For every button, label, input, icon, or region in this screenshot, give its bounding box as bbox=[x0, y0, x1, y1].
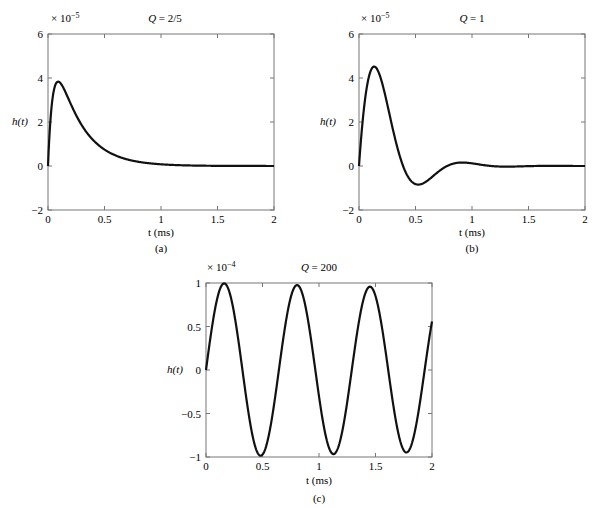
xlabel-c: t (ms) bbox=[306, 474, 332, 487]
title-a: Q = 2/5 bbox=[148, 12, 182, 24]
panel-a: −20246 00.511.52 × 10−5 Q = 2/5 h(t) t (… bbox=[12, 11, 277, 255]
x-tick-labels-b: 00.511.52 bbox=[356, 213, 588, 225]
svg-text:6: 6 bbox=[38, 28, 44, 40]
multiplier-b: × 10−5 bbox=[361, 11, 389, 24]
svg-text:1: 1 bbox=[196, 277, 202, 289]
svg-text:1.5: 1.5 bbox=[211, 213, 225, 225]
y-tick-labels-a: −20246 bbox=[31, 28, 43, 216]
x-tick-labels-a: 00.511.52 bbox=[45, 213, 277, 225]
svg-text:4: 4 bbox=[38, 72, 44, 84]
svg-text:0: 0 bbox=[203, 460, 209, 472]
plot-frame-b bbox=[359, 34, 585, 210]
svg-text:2: 2 bbox=[38, 116, 44, 128]
svg-text:−1: −1 bbox=[189, 451, 201, 463]
svg-text:−2: −2 bbox=[31, 204, 43, 216]
multiplier-a: × 10−5 bbox=[51, 11, 79, 24]
svg-text:2: 2 bbox=[429, 460, 435, 472]
caption-a: (a) bbox=[155, 242, 168, 255]
xlabel-b: t (ms) bbox=[459, 226, 485, 239]
svg-text:0: 0 bbox=[45, 213, 51, 225]
caption-b: (b) bbox=[466, 242, 479, 255]
svg-text:0: 0 bbox=[356, 213, 362, 225]
curve-a bbox=[48, 82, 274, 166]
panel-c: −1−0.500.51 00.511.52 × 10−4 Q = 200 h(t… bbox=[167, 260, 435, 505]
svg-text:2: 2 bbox=[582, 213, 588, 225]
xlabel-a: t (ms) bbox=[148, 226, 174, 239]
panel-b: −20246 00.511.52 × 10−5 Q = 1 h(t) t (ms… bbox=[320, 11, 588, 255]
ylabel-b: h(t) bbox=[320, 115, 336, 128]
title-b: Q = 1 bbox=[459, 12, 484, 24]
svg-text:1: 1 bbox=[158, 213, 164, 225]
svg-text:0.5: 0.5 bbox=[98, 213, 112, 225]
svg-text:0: 0 bbox=[38, 160, 44, 172]
svg-text:0: 0 bbox=[349, 160, 355, 172]
svg-text:1.5: 1.5 bbox=[522, 213, 536, 225]
svg-text:0.5: 0.5 bbox=[409, 213, 423, 225]
svg-text:1: 1 bbox=[469, 213, 475, 225]
multiplier-c: × 10−4 bbox=[207, 260, 235, 273]
tick-marks-a bbox=[48, 34, 274, 210]
plot-frame-a bbox=[48, 34, 274, 210]
svg-text:4: 4 bbox=[349, 72, 355, 84]
curve-c bbox=[206, 283, 432, 455]
svg-text:2: 2 bbox=[271, 213, 277, 225]
svg-text:−2: −2 bbox=[342, 204, 354, 216]
svg-text:0: 0 bbox=[196, 364, 202, 376]
svg-text:6: 6 bbox=[349, 28, 355, 40]
caption-c: (c) bbox=[313, 492, 326, 505]
svg-text:0.5: 0.5 bbox=[256, 460, 270, 472]
y-tick-labels-c: −1−0.500.51 bbox=[181, 277, 201, 463]
svg-text:0.5: 0.5 bbox=[187, 321, 201, 333]
ylabel-a: h(t) bbox=[12, 115, 28, 128]
curve-b bbox=[359, 67, 585, 185]
svg-text:2: 2 bbox=[349, 116, 355, 128]
ylabel-c: h(t) bbox=[167, 363, 183, 376]
x-tick-labels-c: 00.511.52 bbox=[203, 460, 435, 472]
figure: −20246 00.511.52 × 10−5 Q = 2/5 h(t) t (… bbox=[0, 0, 603, 508]
title-c: Q = 200 bbox=[301, 261, 338, 273]
tick-marks-b bbox=[359, 34, 585, 210]
svg-text:−0.5: −0.5 bbox=[181, 408, 201, 420]
svg-text:1.5: 1.5 bbox=[369, 460, 383, 472]
y-tick-labels-b: −20246 bbox=[342, 28, 354, 216]
svg-text:1: 1 bbox=[316, 460, 322, 472]
